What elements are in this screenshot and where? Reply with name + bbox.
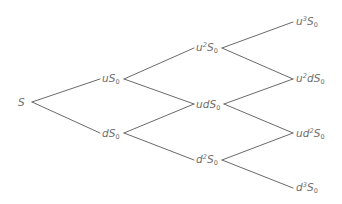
- edge-s-to-d: [32, 102, 100, 133]
- edge-dd-to-ddd: [222, 160, 293, 188]
- edge-uu-to-uud: [222, 48, 293, 79]
- node-uu: u2S0: [196, 41, 218, 53]
- node-u-subscript: 0: [116, 78, 120, 86]
- node-dd-base: S: [207, 153, 214, 165]
- edge-dd-to-udd: [222, 133, 293, 160]
- node-uuu-base: S: [307, 15, 314, 27]
- node-ddd-subscript: 0: [314, 187, 318, 195]
- node-ud-prefix: ud: [196, 98, 210, 110]
- node-udd: ud2S0: [296, 127, 325, 139]
- node-uud-mid: d: [307, 72, 314, 84]
- node-ddd: d3S0: [296, 181, 318, 193]
- edge-d-to-dd: [124, 133, 194, 160]
- node-u-prefix: u: [102, 72, 109, 84]
- node-u-base: S: [109, 72, 116, 84]
- node-root: S: [18, 96, 25, 108]
- node-uud-subscript: 0: [321, 78, 325, 86]
- node-udd-prefix: ud: [296, 127, 310, 139]
- node-dd-subscript: 0: [214, 159, 218, 167]
- edge-d-to-ud: [124, 104, 194, 133]
- node-d: dS0: [102, 127, 120, 139]
- node-u: uS0: [102, 72, 120, 84]
- tree-edges: [0, 0, 342, 204]
- node-ddd-prefix: d: [296, 181, 303, 193]
- node-uu-prefix: u: [196, 41, 203, 53]
- node-ud: udS0: [196, 98, 221, 110]
- node-d-base: S: [109, 127, 116, 139]
- node-uud-prefix: u: [296, 72, 303, 84]
- node-uu-subscript: 0: [214, 47, 218, 55]
- edge-u-to-ud: [124, 79, 194, 104]
- edge-uu-to-uuu: [222, 22, 293, 48]
- node-uuu-prefix: u: [296, 15, 303, 27]
- node-ud-subscript: 0: [216, 104, 220, 112]
- node-uu-base: S: [207, 41, 214, 53]
- edge-s-to-u: [32, 79, 100, 102]
- edge-ud-to-udd: [224, 104, 293, 133]
- node-d-prefix: d: [102, 127, 109, 139]
- node-d-subscript: 0: [116, 133, 120, 141]
- binomial-tree-diagram: S uS0 dS0 u2S0 udS0 d2S0 u3S0 u2dS0 ud2S…: [0, 0, 342, 204]
- node-dd-prefix: d: [196, 153, 203, 165]
- node-udd-base: S: [314, 127, 321, 139]
- edge-ud-to-uud: [224, 79, 293, 104]
- node-dd: d2S0: [196, 153, 218, 165]
- edge-u-to-uu: [124, 48, 194, 79]
- node-uuu: u3S0: [296, 15, 318, 27]
- node-uuu-subscript: 0: [314, 21, 318, 29]
- node-ddd-base: S: [307, 181, 314, 193]
- node-uud: u2dS0: [296, 72, 325, 84]
- node-uud-base: S: [314, 72, 321, 84]
- node-udd-subscript: 0: [321, 133, 325, 141]
- node-root-label: S: [18, 96, 25, 108]
